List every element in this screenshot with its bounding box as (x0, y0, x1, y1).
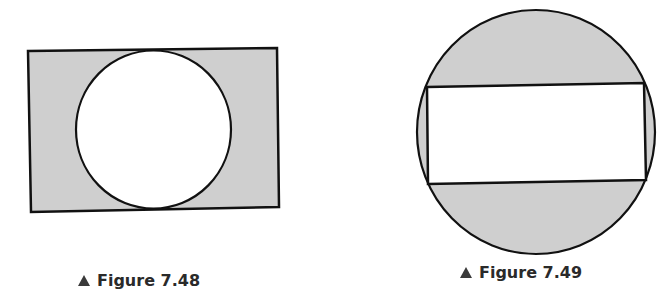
figure-7-49-caption: Figure 7.49 (460, 263, 582, 282)
triangle-marker-icon (460, 267, 472, 278)
caption-text: Figure 7.49 (479, 263, 582, 282)
fig49-inscribed-rectangle (427, 83, 646, 184)
figure-7-48-caption: Figure 7.48 (78, 271, 200, 290)
figure-7-49-diagram (417, 10, 655, 254)
triangle-marker-icon (78, 275, 90, 286)
figure-7-48-diagram (28, 48, 279, 212)
caption-text: Figure 7.48 (97, 271, 200, 290)
fig48-inscribed-circle (76, 51, 231, 209)
figures-canvas (0, 0, 670, 295)
